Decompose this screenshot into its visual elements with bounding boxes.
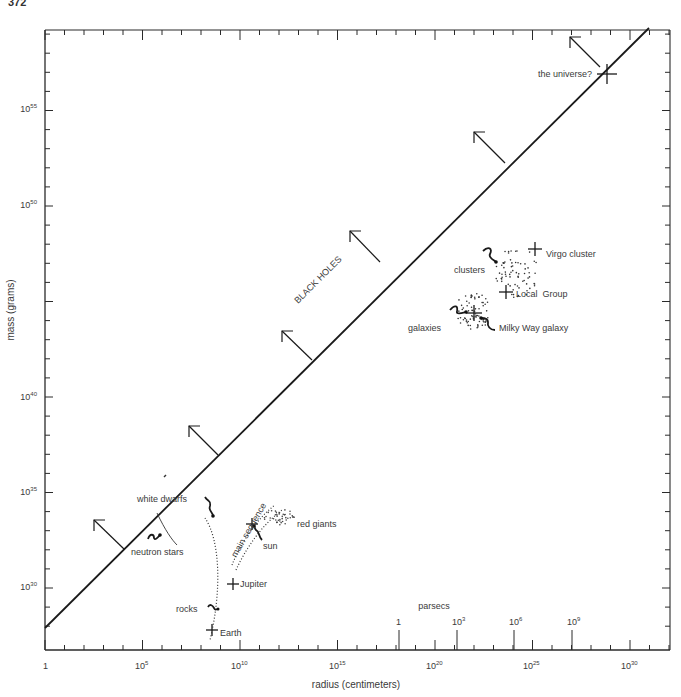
galaxies-dot-cloud — [456, 293, 489, 330]
label-virgo-cluster: Virgo cluster — [546, 249, 596, 259]
red-giants-dot-cloud — [264, 509, 295, 525]
cross-icon-jupiter — [227, 578, 239, 590]
label-clusters: clusters — [454, 265, 486, 275]
label-local-group: Local Group — [516, 289, 568, 299]
mass-radius-chart: 1 105 1010 1015 1020 1025 1030 radius (c… — [0, 0, 681, 697]
stray-mark — [164, 475, 166, 477]
x-axis-title: radius (centimeters) — [312, 679, 400, 690]
right-axis-ticks — [662, 34, 670, 626]
parsec-tick-label: 109 — [567, 616, 581, 627]
y-axis-ticks — [45, 34, 53, 626]
label-sun: sun — [263, 541, 278, 551]
label-galaxies: galaxies — [408, 323, 442, 333]
parsecs-tick-labels: 1 103 106 109 — [396, 616, 581, 627]
x-axis-ticks — [45, 640, 669, 650]
y-tick-label: 1030 — [20, 581, 37, 592]
black-holes-label: BLACK HOLES — [292, 254, 343, 305]
parsec-tick-label: 103 — [452, 616, 466, 627]
x-tick-label: 1025 — [523, 660, 540, 671]
x-tick-label: 105 — [135, 660, 149, 671]
squiggle-arrow-icon — [208, 605, 218, 610]
label-white-dwarfs: white dwarfs — [136, 494, 188, 504]
x-tick-label: 1010 — [231, 660, 248, 671]
arrow-icon — [282, 331, 312, 360]
pointer-arrows — [148, 248, 496, 609]
dotted-curves — [157, 505, 282, 640]
cross-icon-virgo — [528, 242, 542, 256]
squiggle-arrow-icon — [148, 535, 160, 539]
label-neutron-stars: neutron stars — [131, 547, 184, 557]
y-axis-labels: 1055 1050 1040 1035 1030 — [20, 103, 37, 592]
label-the-universe: the universe? — [538, 69, 592, 79]
y-tick-label: 1050 — [20, 199, 37, 210]
neutron-star-curve — [157, 513, 177, 545]
white-dwarf-earth-curve — [205, 518, 218, 640]
x-tick-label: 1015 — [329, 660, 346, 671]
squiggle-arrow-icon — [205, 497, 213, 516]
cross-icon-local-group — [499, 285, 513, 299]
top-axis-ticks — [45, 30, 669, 40]
arrow-icon — [350, 231, 380, 262]
label-rocks: rocks — [176, 604, 198, 614]
plot-frame — [45, 30, 670, 650]
label-red-giants: red giants — [297, 519, 337, 529]
x-tick-label: 1 — [43, 661, 48, 671]
parsec-tick-label: 106 — [509, 616, 523, 627]
arrow-icon — [94, 520, 124, 549]
object-labels: the universe? Virgo cluster clusters Loc… — [131, 69, 596, 638]
label-jupiter: Jupiter — [240, 579, 267, 589]
parsecs-axis — [399, 630, 572, 650]
x-tick-label: 1030 — [621, 660, 638, 671]
y-axis-title: mass (grams) — [5, 279, 16, 340]
arrow-icon — [570, 37, 600, 67]
label-milky-way-galaxy: Milky Way galaxy — [499, 323, 569, 333]
arrow-icon — [189, 426, 218, 455]
y-tick-label: 1035 — [20, 486, 37, 497]
pointer-dots — [158, 260, 498, 610]
parsecs-label: parsecs — [418, 601, 450, 611]
arrow-icon — [474, 132, 505, 163]
y-tick-label: 1040 — [20, 391, 37, 402]
label-earth: Earth — [220, 628, 242, 638]
x-axis-labels: 1 105 1010 1015 1020 1025 1030 — [43, 660, 638, 671]
x-tick-label: 1020 — [426, 660, 443, 671]
squiggle-arrow-icon — [483, 248, 496, 262]
parsec-tick-label: 1 — [396, 617, 401, 627]
y-tick-label: 1055 — [20, 103, 37, 114]
